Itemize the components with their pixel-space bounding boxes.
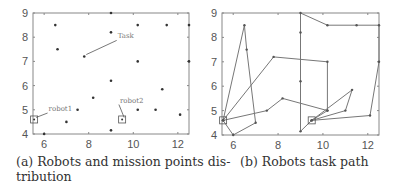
y-tick-label: 7 — [22, 55, 28, 67]
path-point — [232, 134, 234, 136]
mission-point — [56, 48, 59, 51]
path-point — [311, 119, 313, 121]
mission-point — [154, 109, 157, 112]
x-tick-label: 12 — [172, 138, 184, 150]
mission-point — [92, 96, 95, 99]
y-tick-label: 5 — [211, 105, 217, 117]
path-point — [299, 80, 301, 82]
x-tick-label: 10 — [317, 139, 329, 150]
robot-path — [301, 13, 380, 131]
path-point — [299, 130, 301, 132]
x-tick-label: 6 — [41, 138, 47, 150]
figure-b: 681012456789 — [200, 0, 396, 150]
y-tick-label: 9 — [211, 7, 217, 19]
path-point — [369, 114, 371, 116]
mission-point — [110, 31, 113, 34]
robot-path — [223, 25, 327, 135]
x-tick-label: 10 — [127, 138, 139, 150]
path-point — [254, 122, 256, 124]
mission-point — [188, 60, 191, 63]
mission-point — [136, 60, 139, 63]
x-tick-label: 8 — [86, 138, 92, 150]
path-point — [326, 24, 328, 26]
path-point — [326, 61, 328, 63]
path-point — [272, 56, 274, 58]
figure-a: 681012456789Taskrobot1robot2 — [0, 0, 200, 150]
x-tick-label: 8 — [275, 139, 281, 150]
annotation-label: Task — [118, 32, 135, 40]
mission-point — [188, 24, 191, 27]
path-point — [378, 24, 380, 26]
path-point — [326, 109, 328, 111]
annotation-label: robot1 — [49, 105, 73, 113]
mission-point — [110, 12, 113, 15]
y-tick-label: 5 — [22, 104, 28, 116]
x-tick-label: 12 — [362, 139, 374, 150]
mission-point — [161, 88, 164, 91]
path-point — [344, 109, 346, 111]
y-tick-label: 9 — [22, 7, 28, 19]
y-tick-label: 6 — [211, 80, 217, 92]
y-tick-label: 6 — [22, 80, 28, 92]
mission-point — [110, 79, 113, 82]
x-tick-label: 6 — [230, 139, 236, 150]
mission-point — [179, 113, 182, 116]
mission-point — [136, 24, 139, 27]
caption-b: (b) Robots task path — [240, 154, 369, 169]
path-point — [351, 89, 353, 91]
caption-a-line2: tribution — [16, 169, 230, 184]
path-point — [281, 97, 283, 99]
caption-a: (a) Robots and mission points dis- tribu… — [16, 154, 230, 184]
path-point — [299, 12, 301, 14]
y-tick-label: 4 — [211, 129, 217, 141]
mission-point — [165, 24, 168, 27]
annotation-label: robot2 — [120, 97, 144, 105]
y-tick-label: 4 — [22, 128, 28, 140]
y-tick-label: 7 — [211, 56, 217, 68]
path-point — [355, 24, 357, 26]
mission-point — [76, 109, 79, 112]
path-point — [245, 48, 247, 50]
path-point — [299, 31, 301, 33]
path-point — [222, 119, 224, 121]
scatter-plot-a: 681012456789Taskrobot1robot2 — [0, 0, 200, 150]
path-point — [378, 61, 380, 63]
caption-a-line1: (a) Robots and mission points dis- — [16, 154, 230, 169]
y-tick-label: 8 — [22, 31, 28, 43]
mission-point — [65, 121, 68, 124]
path-point — [266, 109, 268, 111]
path-point — [243, 24, 245, 26]
mission-point — [43, 133, 46, 136]
mission-point — [110, 129, 113, 132]
mission-point — [83, 55, 86, 58]
y-tick-label: 8 — [211, 31, 217, 43]
caption-b-text: (b) Robots task path — [240, 154, 369, 169]
mission-point — [54, 24, 57, 27]
mission-point — [136, 109, 139, 112]
path-plot-b: 681012456789 — [200, 0, 396, 150]
